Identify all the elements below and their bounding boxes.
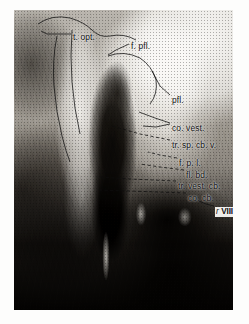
fine-grain-texture <box>14 10 233 310</box>
figure-root: t. opt. f. pfl. pfl. co. vest. tr. sp. c… <box>0 0 249 324</box>
micrograph-plate <box>14 10 233 310</box>
